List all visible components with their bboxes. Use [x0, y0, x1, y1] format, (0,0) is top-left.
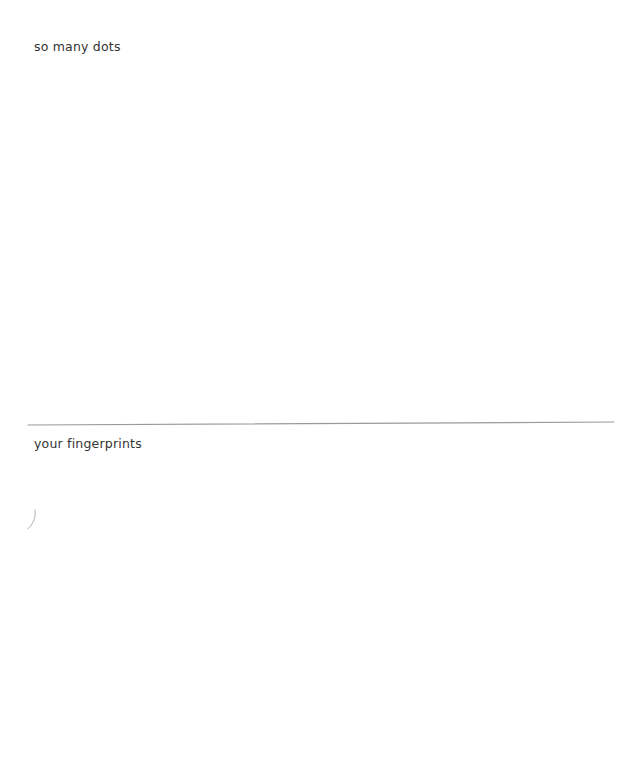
- fingerprints-section-label: your fingerprints: [34, 436, 142, 451]
- clipped-header-text: [0, 0, 637, 6]
- fingerprint-stroke: [0, 456, 637, 778]
- section-divider: [0, 412, 637, 432]
- dots-canvas[interactable]: [0, 60, 637, 415]
- dots-section-label: so many dots: [34, 39, 121, 54]
- fingerprints-canvas[interactable]: [0, 456, 637, 778]
